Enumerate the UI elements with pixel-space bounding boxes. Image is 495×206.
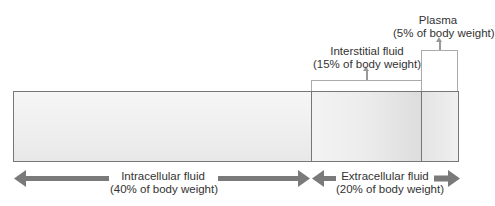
intracellular-percent: (40% of body weight) bbox=[110, 183, 216, 196]
extracellular-percent: (20% of body weight) bbox=[336, 183, 434, 196]
intracellular-left-arrow-icon bbox=[14, 170, 109, 187]
extracellular-left-arrow-icon bbox=[312, 170, 336, 187]
extracellular-label: Extracellular fluid (20% of body weight) bbox=[336, 170, 434, 196]
intracellular-name: Intracellular fluid bbox=[110, 170, 216, 183]
intracellular-label: Intracellular fluid (40% of body weight) bbox=[110, 170, 216, 196]
intracellular-right-arrow-icon bbox=[218, 170, 310, 187]
extracellular-name: Extracellular fluid bbox=[336, 170, 434, 183]
